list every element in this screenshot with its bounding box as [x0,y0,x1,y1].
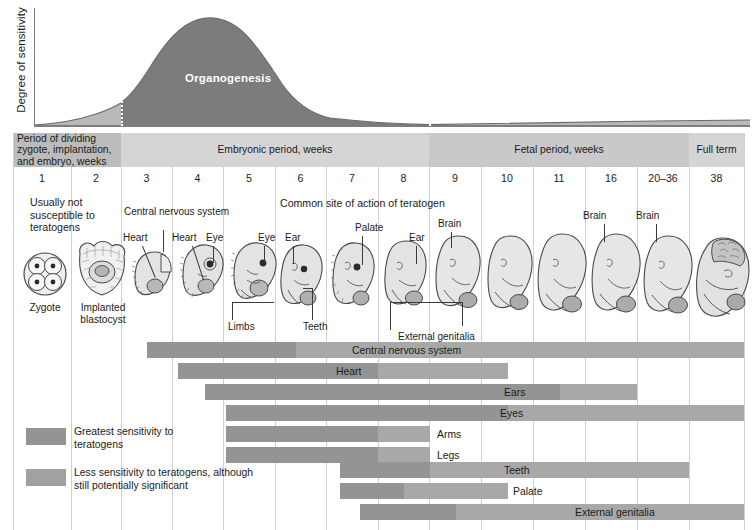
week-cell-38: 38 [689,167,744,189]
leader-genitalia-v1 [390,302,391,330]
callout-teeth: Teeth [303,321,327,332]
leader-teeth-h [303,288,313,289]
leader-ear-week-6 [293,246,294,264]
leader-limbs-h [232,302,274,303]
bar-segment-low-sensitivity [378,363,508,379]
period-band: Period of dividing zygote, implantation,… [13,133,744,167]
bar-segment-low-sensitivity [378,426,430,442]
leader-brain-week-16 [604,224,605,242]
period-zygote: Period of dividing zygote, implantation,… [13,133,121,167]
bar-external-genitalia [360,504,744,520]
bar-label-central-nervous-system: Central nervous system [352,342,461,358]
callout-ear-week-8: Ear [409,232,425,243]
bar-label-eyes: Eyes [500,405,523,421]
bar-label-external-genitalia: External genitalia [575,504,655,520]
callout-brain-week-16: Brain [583,210,606,221]
bar-label-arms: Arms [437,426,461,442]
sensitivity-curve [34,4,750,127]
week-cell-20-36: 20–36 [637,167,689,189]
legend-swatch-high [26,428,66,445]
bar-label-palate: Palate [513,483,542,499]
figure-fetus-week-16 [590,232,644,318]
figure-newborn-week-38 [694,236,752,322]
figure-fetus-week-20-36 [642,234,696,320]
bar-segment-high-sensitivity [147,342,296,358]
figure-zygote [22,250,68,298]
figure-embryo-week-3 [131,248,173,306]
leader-eye-week-4 [213,246,214,263]
figure-implanted-blastocyst [76,238,128,300]
period-full-term: Full term [689,133,744,167]
teratogen-critical-periods-diagram: Degree of sensitivity Organogenesis Peri… [0,0,756,530]
week-cell-5: 5 [223,167,275,189]
leader-eye-week-5 [264,246,265,263]
week-cell-1: 1 [13,167,71,189]
caption-zygote: Zygote [16,302,74,314]
bar-segment-high-sensitivity [340,462,430,478]
leader-palate [362,236,363,265]
week-cell-11: 11 [533,167,585,189]
callout-heart-week-3: Heart [123,232,147,243]
figure-embryo-week-4 [180,242,226,306]
legend-item-high: Greatest sensitivity to teratogens [26,426,266,456]
caption-implanted-blastocyst: Implanted blastocyst [72,302,134,325]
week-cell-2: 2 [71,167,121,189]
legend-label: Less sensitivity to teratogens, although… [74,466,264,492]
bar-palate [340,483,508,499]
leader-cns [163,230,164,252]
week-cell-16: 16 [585,167,637,189]
leader-genitalia-h [390,302,462,303]
period-embryonic: Embryonic period, weeks [121,133,429,167]
bar-segment-low-sensitivity [560,384,637,400]
bar-segment-low-sensitivity [508,405,744,421]
callout-palate: Palate [355,222,383,233]
leader-teeth-v [312,288,313,320]
callout-eye-week-4: Eye [206,232,223,243]
bar-label-legs: Legs [437,447,460,463]
bar-segment-low-sensitivity [404,483,508,499]
legend-swatch-low [26,469,66,486]
embryo-figure-row: Zygote Implanted blastocyst [0,190,756,338]
figure-embryo-week-6 [278,242,326,312]
legend-label: Greatest sensitivity to teratogens [74,425,194,451]
leader-ear-week-8 [416,246,417,264]
week-cell-9: 9 [429,167,481,189]
week-cell-6: 6 [275,167,326,189]
leader-genitalia-v2 [462,302,463,326]
callout-central-nervous-system: Central nervous system [124,206,229,217]
callout-ear-week-6: Ear [285,232,301,243]
bar-segment-low-sensitivity [378,447,430,463]
figure-fetus-week-11 [536,232,590,318]
period-fetal: Fetal period, weeks [429,133,689,167]
bar-segment-high-sensitivity [340,483,404,499]
bar-ears [205,384,637,400]
week-cell-4: 4 [172,167,223,189]
bar-label-heart: Heart [336,363,361,379]
bar-eyes [226,405,744,421]
callout-eye-week-5: Eye [258,232,275,243]
week-cell-10: 10 [481,167,533,189]
callout-heart-week-4: Heart [172,232,196,243]
callout-brain-week-20: Brain [636,210,659,221]
bar-segment-high-sensitivity [226,405,508,421]
legend: Greatest sensitivity to teratogensLess s… [26,426,266,508]
leader-brain-week-9 [451,232,452,248]
divider-fetal-start [429,30,431,126]
callout-brain-week-9: Brain [438,218,461,229]
bar-label-teeth: Teeth [504,462,529,478]
figure-embryo-week-8 [382,238,430,312]
callout-limbs: Limbs [228,321,255,332]
week-cell-3: 3 [121,167,172,189]
bar-segment-low-sensitivity [430,462,689,478]
figure-embryo-week-5 [231,240,279,308]
leader-limbs-v [232,302,233,320]
week-cell-8: 8 [378,167,429,189]
legend-item-low: Less sensitivity to teratogens, although… [26,467,266,497]
leader-brain-week-20 [656,224,657,242]
figure-fetus-week-10 [486,234,536,316]
divider-embryonic-start [121,30,123,126]
organogenesis-label: Organogenesis [185,72,271,84]
figure-embryo-week-7 [330,240,378,312]
bar-label-ears: Ears [504,384,525,400]
week-cell-7: 7 [326,167,378,189]
